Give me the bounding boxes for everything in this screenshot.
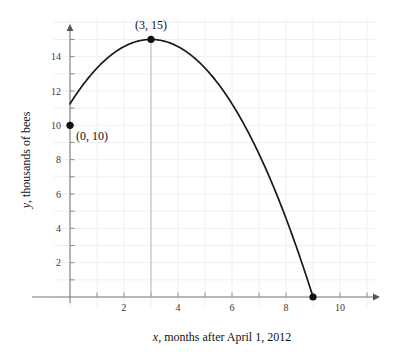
marked-data-points (66, 36, 316, 301)
x-tick-label: 8 (284, 302, 289, 313)
y-axis-tick-labels: 2468101214 (51, 51, 61, 268)
axes (32, 24, 380, 303)
data-point-vertex-maximum (147, 36, 154, 43)
bee-population-graph-figure: 246810 2468101214 (0, 10)(3, 15) x, mont… (0, 0, 396, 358)
x-tick-label: 10 (335, 302, 345, 313)
x-axis-arrow-icon (373, 294, 380, 301)
y-tick-label: 10 (51, 120, 61, 131)
y-axis-title-text: , thousands of bees (19, 111, 33, 203)
x-axis-title-text: , months after April 1, 2012 (158, 330, 291, 344)
y-tick-label: 4 (56, 223, 61, 234)
x-axis-tick-labels: 246810 (122, 302, 346, 313)
tick-marks (70, 39, 367, 297)
x-axis-title: x, months after April 1, 2012 (152, 330, 291, 344)
y-tick-label: 8 (56, 154, 61, 165)
y-tick-label: 14 (51, 51, 61, 62)
y-tick-label: 2 (56, 257, 61, 268)
data-point-x-intercept (309, 293, 316, 300)
x-tick-label: 2 (122, 302, 127, 313)
parabola-chart-svg: 246810 2468101214 (0, 10)(3, 15) x, mont… (0, 0, 396, 358)
y-axis-title: y, thousands of bees (19, 111, 33, 209)
x-tick-label: 4 (176, 302, 181, 313)
parabola-curve (70, 39, 313, 297)
y-axis-arrow-icon (67, 24, 74, 31)
y-tick-label: 6 (56, 189, 61, 200)
data-point-y-intercept (66, 122, 73, 129)
point-label-vertex-maximum: (3, 15) (135, 18, 167, 32)
y-tick-label: 12 (51, 86, 61, 97)
point-label-y-intercept: (0, 10) (76, 129, 108, 143)
x-tick-label: 6 (230, 302, 235, 313)
